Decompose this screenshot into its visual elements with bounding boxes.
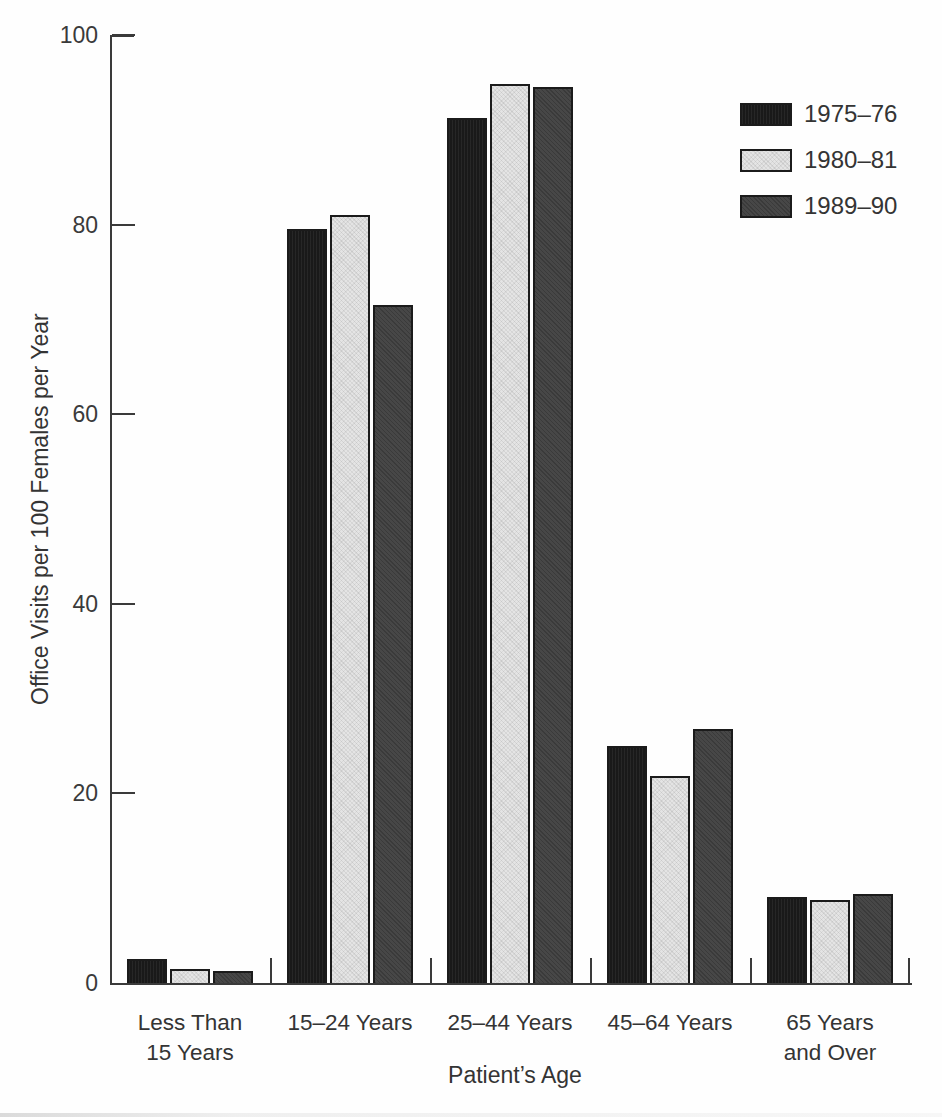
y-tick-label: 100 [0, 22, 98, 49]
x-category-label-line: 45–64 Years [590, 1008, 750, 1038]
figure-page: Office Visits per 100 Females per Year P… [0, 0, 942, 1117]
bar-1989-90-g0 [213, 971, 253, 983]
y-axis-tick [112, 603, 135, 605]
bar-1989-90-g3 [693, 729, 733, 983]
legend-swatch [740, 149, 792, 172]
x-category-label-line: 15–24 Years [270, 1008, 430, 1038]
bar-1989-90-g4 [853, 894, 893, 983]
category-divider-tick [908, 958, 910, 983]
bar-1980-81-g3 [650, 776, 690, 983]
legend-label: 1980–81 [804, 146, 897, 174]
x-category-label: 65 Yearsand Over [750, 1008, 910, 1068]
legend-swatch [740, 195, 792, 218]
legend-swatch [740, 103, 792, 126]
y-tick-label: 0 [0, 970, 98, 997]
bar-1980-81-g1 [330, 215, 370, 983]
category-divider-tick [750, 958, 752, 983]
x-category-label: 25–44 Years [430, 1008, 590, 1038]
bar-1980-81-g2 [490, 84, 530, 983]
x-category-label-line: 25–44 Years [430, 1008, 590, 1038]
y-tick-label: 80 [0, 212, 98, 239]
legend-item: 1980–81 [740, 146, 897, 174]
x-category-label: Less Than15 Years [110, 1008, 270, 1068]
category-divider-tick [430, 958, 432, 983]
bar-1975-76-g1 [287, 229, 327, 983]
y-axis-line [110, 35, 112, 985]
bar-1975-76-g0 [127, 959, 167, 983]
x-category-label-line: and Over [750, 1038, 910, 1068]
y-axis-tick [112, 224, 135, 226]
y-axis-tick [112, 34, 135, 36]
x-category-label-line: 15 Years [110, 1038, 270, 1068]
legend: 1975–761980–811989–90 [740, 100, 897, 238]
bar-1975-76-g3 [607, 746, 647, 983]
legend-item: 1989–90 [740, 192, 897, 220]
bar-1975-76-g4 [767, 897, 807, 983]
bar-1989-90-g1 [373, 305, 413, 983]
x-category-label-line: Less Than [110, 1008, 270, 1038]
y-tick-label: 40 [0, 591, 98, 618]
x-category-label: 15–24 Years [270, 1008, 430, 1038]
legend-label: 1975–76 [804, 100, 897, 128]
x-axis-line [110, 983, 912, 985]
category-divider-tick [590, 958, 592, 983]
x-category-label-line: 65 Years [750, 1008, 910, 1038]
cropped-caption-edge [0, 1113, 942, 1117]
y-tick-label: 60 [0, 401, 98, 428]
legend-label: 1989–90 [804, 192, 897, 220]
category-divider-tick [270, 958, 272, 983]
y-axis-tick [112, 413, 135, 415]
bar-1989-90-g2 [533, 87, 573, 983]
legend-item: 1975–76 [740, 100, 897, 128]
y-axis-tick [112, 792, 135, 794]
y-tick-label: 20 [0, 780, 98, 807]
bar-1980-81-g0 [170, 969, 210, 983]
x-category-label: 45–64 Years [590, 1008, 750, 1038]
bar-1980-81-g4 [810, 900, 850, 983]
bar-1975-76-g2 [447, 118, 487, 983]
y-axis-title: Office Visits per 100 Females per Year [22, 35, 58, 983]
